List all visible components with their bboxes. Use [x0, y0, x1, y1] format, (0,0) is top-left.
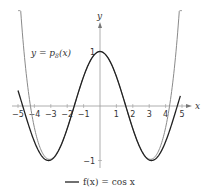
y-axis-label: y [96, 11, 103, 21]
x-tick-label: 5 [179, 110, 184, 119]
curve-label: y = p8(x) [30, 48, 72, 59]
chart: x y −5−4−3−2−1123451−1 y = p8(x) f(x) = … [0, 0, 205, 194]
x-tick-label: 2 [130, 110, 135, 119]
x-axis-arrow-icon [186, 104, 192, 108]
x-axis-label: x [195, 101, 200, 111]
y-tick-label: −1 [83, 157, 95, 166]
x-tick-label: 3 [147, 110, 152, 119]
legend-label: f(x) = cos x [83, 177, 135, 187]
ticks: −5−4−3−2−1123451−1 [12, 48, 184, 166]
y-axis-arrow-icon [98, 22, 102, 28]
x-tick-label: −3 [45, 110, 57, 119]
x-tick-label: 1 [114, 110, 119, 119]
x-tick-label: −4 [29, 110, 41, 119]
legend: f(x) = cos x [65, 177, 135, 187]
x-tick-label: −5 [12, 110, 24, 119]
x-tick-label: −1 [78, 110, 90, 119]
